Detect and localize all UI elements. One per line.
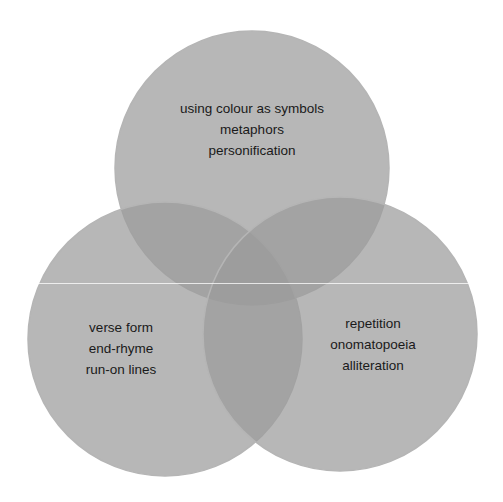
top-label-2: metaphors — [180, 119, 324, 140]
right-label-1: repetition — [330, 313, 416, 334]
right-label-2: onomatopoeia — [330, 334, 416, 355]
left-circle-labels: verse form end-rhyme run-on lines — [86, 317, 157, 380]
left-label-2: end-rhyme — [86, 338, 157, 359]
venn-diagram — [0, 0, 503, 502]
right-circle-labels: repetition onomatopoeia alliteration — [330, 313, 416, 376]
top-label-1: using colour as symbols — [180, 98, 324, 119]
top-label-3: personification — [180, 140, 324, 161]
left-label-1: verse form — [86, 317, 157, 338]
left-label-3: run-on lines — [86, 359, 157, 380]
horizontal-divider-line — [30, 283, 475, 284]
top-circle-labels: using colour as symbols metaphors person… — [180, 98, 324, 161]
right-label-3: alliteration — [330, 355, 416, 376]
